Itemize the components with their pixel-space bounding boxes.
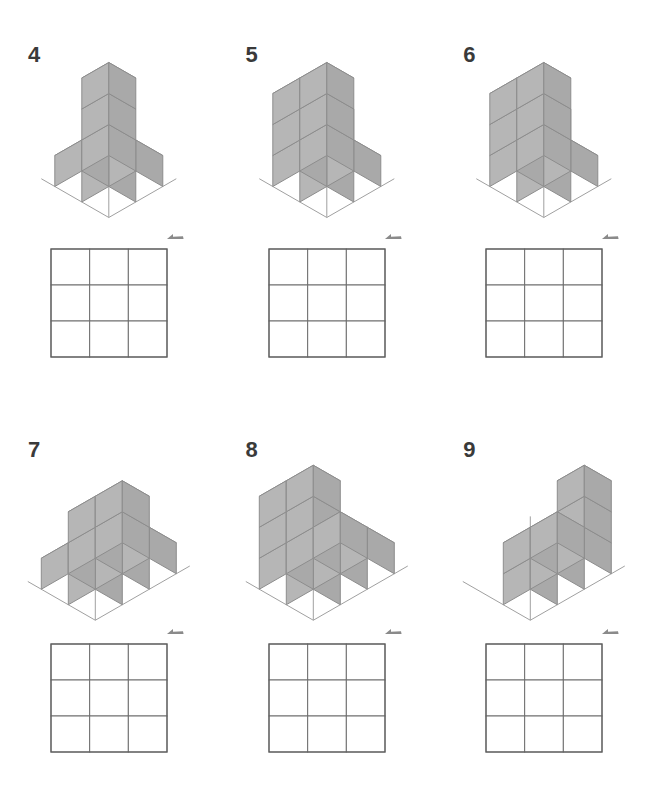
cube-stack bbox=[41, 481, 176, 605]
grid-cell[interactable] bbox=[486, 321, 525, 357]
grid-cell[interactable] bbox=[346, 249, 385, 285]
figure-area bbox=[435, 429, 653, 634]
view-direction-arrow-icon bbox=[385, 234, 402, 239]
grid-cell[interactable] bbox=[90, 321, 129, 357]
grid-cell[interactable] bbox=[307, 680, 346, 716]
grid-cell[interactable] bbox=[486, 249, 525, 285]
answer-grid-wrapper[interactable] bbox=[50, 248, 168, 358]
grid-cell[interactable] bbox=[346, 680, 385, 716]
grid-cell[interactable] bbox=[525, 644, 564, 680]
view-direction-arrow-icon bbox=[602, 629, 619, 634]
figure-area bbox=[0, 34, 218, 239]
grid-cell[interactable] bbox=[564, 644, 603, 680]
cube-stack bbox=[272, 63, 380, 202]
grid-cell[interactable] bbox=[346, 644, 385, 680]
grid-cell[interactable] bbox=[90, 249, 129, 285]
grid-cell[interactable] bbox=[128, 321, 167, 357]
problem-7: 7 bbox=[0, 425, 218, 775]
figure-area bbox=[218, 429, 436, 634]
grid-cell[interactable] bbox=[269, 321, 308, 357]
arrow-glyph bbox=[385, 234, 402, 239]
answer-grid-wrapper[interactable] bbox=[268, 643, 386, 753]
arrow-glyph bbox=[385, 629, 402, 634]
grid-cell[interactable] bbox=[525, 680, 564, 716]
cube-figure bbox=[218, 34, 436, 239]
grid-cell[interactable] bbox=[128, 285, 167, 321]
figure-area bbox=[435, 34, 653, 239]
grid-cell[interactable] bbox=[90, 285, 129, 321]
grid-cell[interactable] bbox=[564, 285, 603, 321]
grid-cell[interactable] bbox=[307, 321, 346, 357]
grid-cell[interactable] bbox=[307, 249, 346, 285]
grid-cell[interactable] bbox=[90, 680, 129, 716]
grid-cell[interactable] bbox=[51, 285, 90, 321]
grid-cell[interactable] bbox=[51, 321, 90, 357]
answer-grid[interactable] bbox=[50, 248, 168, 358]
grid-cell[interactable] bbox=[564, 680, 603, 716]
grid-cell[interactable] bbox=[90, 644, 129, 680]
arrow-glyph bbox=[167, 234, 184, 239]
view-direction-arrow-icon bbox=[385, 629, 402, 634]
answer-grid[interactable] bbox=[485, 643, 603, 753]
grid-cell[interactable] bbox=[90, 716, 129, 752]
grid-cell[interactable] bbox=[486, 644, 525, 680]
cube-stack bbox=[55, 63, 163, 202]
cube-stack bbox=[259, 465, 394, 604]
cube-stack bbox=[503, 465, 611, 604]
answer-grid[interactable] bbox=[268, 248, 386, 358]
answer-grid-wrapper[interactable] bbox=[50, 643, 168, 753]
grid-cell[interactable] bbox=[128, 680, 167, 716]
grid-cell[interactable] bbox=[346, 716, 385, 752]
grid-cell[interactable] bbox=[269, 644, 308, 680]
grid-cell[interactable] bbox=[307, 644, 346, 680]
problem-row-top: 456 bbox=[0, 30, 653, 380]
grid-cell[interactable] bbox=[51, 644, 90, 680]
answer-grid-wrapper[interactable] bbox=[485, 643, 603, 753]
answer-grid[interactable] bbox=[268, 643, 386, 753]
figure-area bbox=[218, 34, 436, 239]
answer-grid-wrapper[interactable] bbox=[268, 248, 386, 358]
grid-cell[interactable] bbox=[269, 249, 308, 285]
grid-cell[interactable] bbox=[525, 249, 564, 285]
grid-cell[interactable] bbox=[486, 680, 525, 716]
cube-figure bbox=[218, 429, 436, 634]
arrow-glyph bbox=[167, 629, 184, 634]
grid-cell[interactable] bbox=[307, 285, 346, 321]
grid-cell[interactable] bbox=[128, 249, 167, 285]
cube-stack bbox=[490, 63, 598, 202]
answer-grid[interactable] bbox=[50, 643, 168, 753]
grid-cell[interactable] bbox=[346, 321, 385, 357]
grid-cell[interactable] bbox=[128, 644, 167, 680]
problem-8: 8 bbox=[218, 425, 436, 775]
grid-cell[interactable] bbox=[525, 716, 564, 752]
answer-grid[interactable] bbox=[485, 248, 603, 358]
problem-4: 4 bbox=[0, 30, 218, 380]
problem-9: 9 bbox=[435, 425, 653, 775]
grid-cell[interactable] bbox=[307, 716, 346, 752]
arrow-glyph bbox=[602, 629, 619, 634]
figure-area bbox=[0, 429, 218, 634]
cube-figure bbox=[435, 429, 653, 634]
grid-cell[interactable] bbox=[346, 285, 385, 321]
cube-figure bbox=[0, 429, 218, 634]
grid-cell[interactable] bbox=[51, 716, 90, 752]
grid-cell[interactable] bbox=[128, 716, 167, 752]
cube-figure bbox=[0, 34, 218, 239]
grid-cell[interactable] bbox=[269, 285, 308, 321]
answer-grid-wrapper[interactable] bbox=[485, 248, 603, 358]
grid-cell[interactable] bbox=[269, 680, 308, 716]
grid-cell[interactable] bbox=[564, 716, 603, 752]
grid-cell[interactable] bbox=[564, 249, 603, 285]
view-direction-arrow-icon bbox=[602, 234, 619, 239]
grid-cell[interactable] bbox=[269, 716, 308, 752]
grid-cell[interactable] bbox=[486, 285, 525, 321]
grid-cell[interactable] bbox=[564, 321, 603, 357]
problem-6: 6 bbox=[435, 30, 653, 380]
view-direction-arrow-icon bbox=[167, 234, 184, 239]
grid-cell[interactable] bbox=[486, 716, 525, 752]
grid-cell[interactable] bbox=[525, 321, 564, 357]
grid-cell[interactable] bbox=[51, 249, 90, 285]
grid-cell[interactable] bbox=[525, 285, 564, 321]
worksheet-page: 456 789 bbox=[0, 0, 653, 788]
grid-cell[interactable] bbox=[51, 680, 90, 716]
